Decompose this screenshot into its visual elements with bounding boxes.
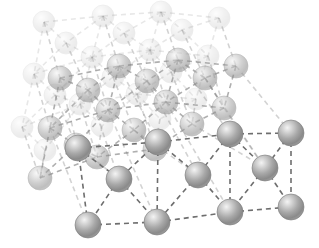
atom-sphere	[65, 135, 91, 161]
atom-sphere	[38, 116, 62, 140]
atom-sphere	[144, 209, 170, 235]
atom-sphere	[150, 1, 172, 23]
atom-sphere	[23, 63, 45, 85]
atom-sphere	[154, 90, 178, 114]
atom-sphere	[75, 212, 101, 238]
atom-sphere	[96, 98, 120, 122]
atom-sphere	[113, 22, 135, 44]
atom-sphere	[28, 166, 52, 190]
atom-sphere	[48, 66, 72, 90]
atom-sphere	[139, 39, 161, 61]
atom-sphere	[197, 45, 219, 67]
atom-sphere	[55, 32, 77, 54]
atom-sphere	[135, 69, 159, 93]
atom-sphere	[185, 162, 211, 188]
atom-sphere	[252, 155, 278, 181]
atom-sphere	[107, 54, 131, 78]
atom-sphere	[217, 199, 243, 225]
atom-sphere	[106, 166, 132, 192]
atom-sphere	[278, 120, 304, 146]
atom-sphere	[34, 139, 56, 161]
atom-group-middle-layer	[28, 48, 248, 190]
atom-sphere	[92, 5, 114, 27]
atom-sphere	[193, 66, 217, 90]
atom-sphere	[145, 129, 171, 155]
atom-sphere	[224, 54, 248, 78]
atom-sphere	[81, 46, 103, 68]
atom-sphere	[185, 88, 207, 110]
atom-sphere	[171, 19, 193, 41]
atom-sphere	[208, 7, 230, 29]
atom-sphere	[166, 48, 190, 72]
atom-sphere	[33, 11, 55, 33]
atom-sphere	[212, 96, 236, 120]
atom-sphere	[122, 118, 146, 142]
atom-sphere	[278, 194, 304, 220]
atom-sphere	[217, 121, 243, 147]
atom-sphere	[76, 78, 100, 102]
atom-sphere	[180, 112, 204, 136]
crystal-lattice-figure	[0, 0, 319, 248]
atom-sphere	[11, 116, 33, 138]
lattice-canvas	[0, 0, 319, 248]
